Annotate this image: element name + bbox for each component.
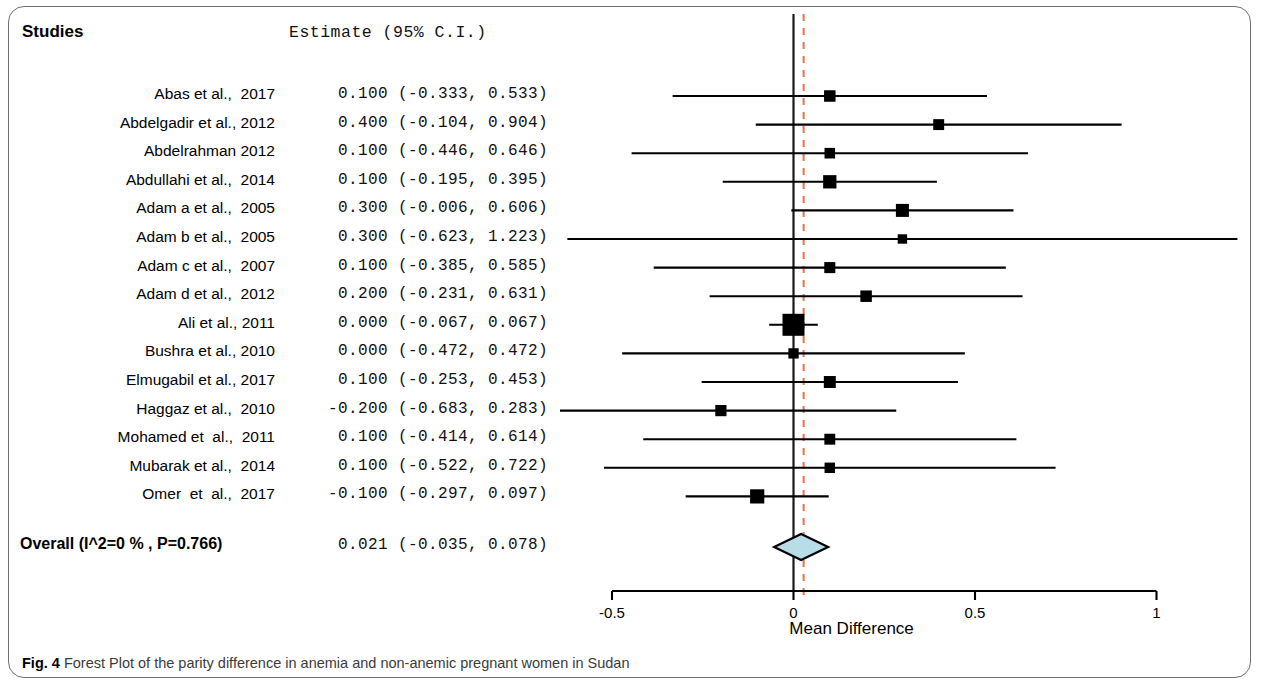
axis-title: Mean Difference (789, 619, 913, 639)
axis-tick-label: -0.5 (599, 604, 625, 621)
axis-tick-label: 1 (1152, 604, 1160, 621)
forest-plot: Studies Estimate (95% C.I.) Abas et al.,… (0, 0, 1267, 640)
frame-edge-mask (1251, 0, 1267, 687)
axis-tick-label: 0.5 (965, 604, 986, 621)
caption-text: Forest Plot of the parity difference in … (64, 655, 630, 671)
figure-caption: Fig. 4 Forest Plot of the parity differe… (22, 655, 629, 671)
plot-graphics (0, 0, 1267, 640)
caption-number: Fig. 4 (22, 655, 60, 671)
figure-page: Studies Estimate (95% C.I.) Abas et al.,… (0, 0, 1267, 687)
